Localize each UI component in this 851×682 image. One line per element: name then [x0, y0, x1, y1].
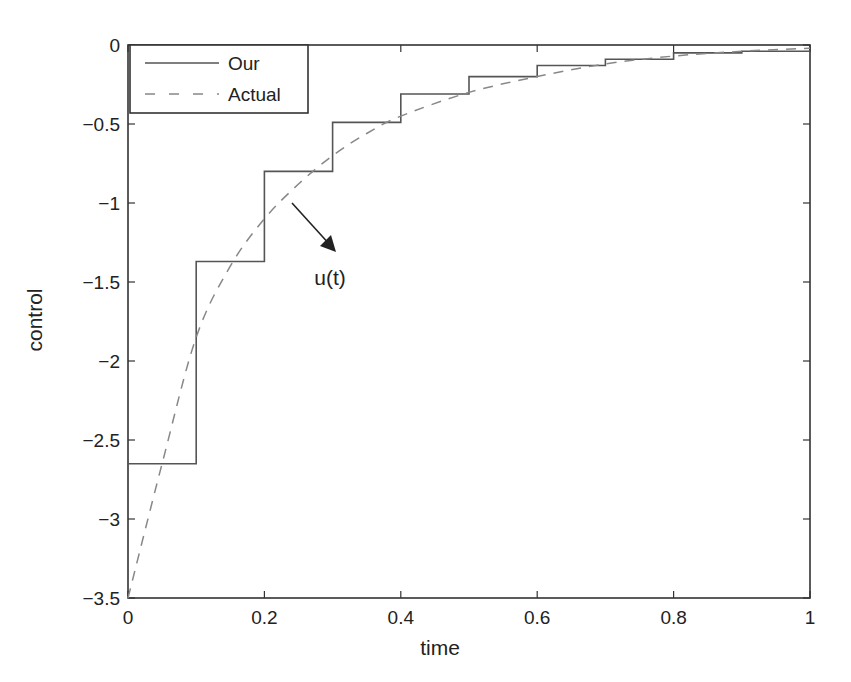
axes: 00.20.40.60.810−0.5−1−1.5−2−2.5−3−3.5: [82, 35, 815, 628]
y-tick-label: 0: [109, 35, 120, 56]
y-tick-label: −2: [98, 351, 120, 372]
y-axis-label: control: [23, 288, 46, 351]
legend-our-label: Our: [228, 53, 260, 74]
y-tick-label: −0.5: [82, 114, 120, 135]
x-tick-label: 0.4: [388, 607, 415, 628]
y-tick-label: −3: [98, 509, 120, 530]
legend-actual-label: Actual: [228, 84, 281, 105]
y-tick-label: −2.5: [82, 430, 120, 451]
series-actual-line: [128, 48, 810, 598]
legend: OurActual: [130, 45, 308, 113]
y-tick-label: −1.5: [82, 272, 120, 293]
x-tick-label: 0.2: [251, 607, 277, 628]
chart: 00.20.40.60.810−0.5−1−1.5−2−2.5−3−3.5 u(…: [0, 0, 851, 682]
arrow-line: [292, 203, 331, 246]
x-tick-label: 1: [805, 607, 816, 628]
x-axis-label: time: [420, 636, 460, 659]
annotation-label: u(t): [314, 266, 346, 289]
annotation-ut: u(t): [292, 203, 346, 289]
axes-box: [128, 45, 810, 598]
x-tick-label: 0.8: [660, 607, 686, 628]
y-tick-label: −3.5: [82, 588, 120, 609]
y-tick-label: −1: [98, 193, 120, 214]
x-tick-label: 0.6: [524, 607, 550, 628]
legend-box: [130, 45, 308, 113]
actual-dashed-path: [128, 48, 810, 598]
x-tick-label: 0: [123, 607, 134, 628]
